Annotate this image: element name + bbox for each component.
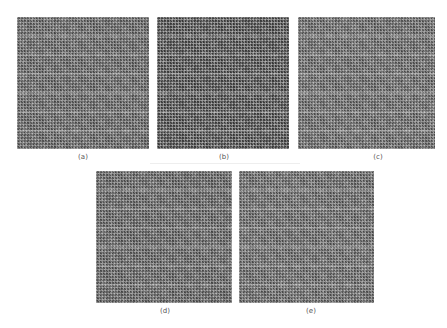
- row-divider: [150, 163, 300, 164]
- texture-panel-e: [239, 171, 374, 303]
- panel-label-b: (b): [219, 154, 229, 161]
- panel-label-e: (e): [306, 308, 316, 315]
- texture-panel-c: [298, 17, 435, 149]
- panel-label-d: (d): [160, 308, 170, 315]
- texture-panel-d: [96, 171, 232, 303]
- texture-bands: [298, 17, 435, 149]
- texture-panel-a: [17, 17, 149, 149]
- panel-label-a: (a): [78, 154, 88, 161]
- texture-bands: [239, 171, 374, 303]
- texture-panel-b: [157, 17, 289, 149]
- panel-label-c: (c): [373, 154, 382, 161]
- texture-bands: [96, 171, 232, 303]
- texture-bands: [17, 17, 149, 149]
- texture-bands: [157, 17, 289, 149]
